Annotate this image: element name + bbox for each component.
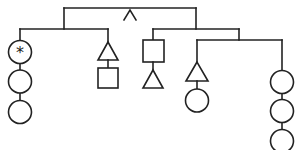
square-node [98, 68, 118, 88]
chain-2 [98, 42, 118, 88]
asterisk-icon: * [16, 43, 24, 62]
circle-node [271, 130, 294, 151]
triangle-node [143, 70, 163, 88]
left-group-bracket [20, 29, 108, 42]
circle-node [186, 89, 209, 112]
chain-4 [186, 62, 209, 112]
triangle-node [186, 62, 208, 81]
tree-diagram: * [0, 0, 300, 150]
circle-node [9, 70, 32, 93]
sub-group-bracket [197, 40, 282, 71]
circle-node [271, 100, 294, 123]
right-group-bracket [153, 29, 239, 40]
triangle-node [98, 42, 118, 60]
chain-5 [271, 71, 294, 151]
chain-3 [143, 40, 164, 88]
and-connector-icon [124, 10, 136, 20]
circle-node [9, 101, 32, 124]
circle-node [271, 71, 294, 94]
square-node [143, 40, 164, 62]
chain-1: * [9, 41, 32, 124]
